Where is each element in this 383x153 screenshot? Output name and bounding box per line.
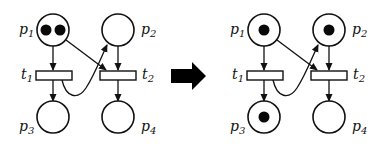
net-after: p1 p2 p3 p4 t1 t2 xyxy=(230,14,367,136)
token xyxy=(259,112,270,123)
label-t1: t1 xyxy=(21,66,33,84)
label-t1: t1 xyxy=(232,66,244,84)
label-t2: t2 xyxy=(142,66,154,84)
arc-t1-p2 xyxy=(273,45,318,96)
place-p4 xyxy=(102,101,134,133)
label-p2: p2 xyxy=(141,21,156,39)
label-p1: p1 xyxy=(19,21,34,39)
label-p3: p3 xyxy=(230,118,245,136)
token xyxy=(259,25,270,36)
token xyxy=(324,25,335,36)
arc-p1-t2 xyxy=(277,40,317,70)
petri-net-diagram: p1 p2 p3 p4 t1 t2 p1 p2 p3 p4 t1 t2 xyxy=(0,0,383,153)
transition-t2 xyxy=(311,71,347,80)
label-p4: p4 xyxy=(141,118,156,136)
label-t2: t2 xyxy=(353,66,365,84)
token xyxy=(41,25,52,36)
right-arrow-icon xyxy=(171,62,206,90)
place-p3 xyxy=(37,101,69,133)
transition-t1 xyxy=(36,71,72,80)
label-p3: p3 xyxy=(19,118,34,136)
arc-p1-t2 xyxy=(66,40,106,70)
token xyxy=(55,25,66,36)
label-p4: p4 xyxy=(352,118,367,136)
transition-t1 xyxy=(247,71,283,80)
label-p2: p2 xyxy=(352,21,367,39)
transition-t2 xyxy=(100,71,136,80)
place-p2 xyxy=(102,14,134,46)
label-p1: p1 xyxy=(230,21,245,39)
arc-t1-p2 xyxy=(62,45,107,96)
place-p4 xyxy=(313,101,345,133)
net-before: p1 p2 p3 p4 t1 t2 xyxy=(19,14,156,136)
